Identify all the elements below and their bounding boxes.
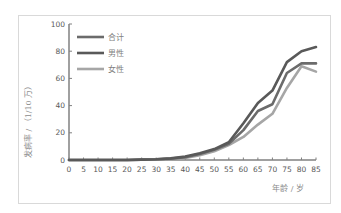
data-lines xyxy=(69,47,316,160)
legend-label: 女性 xyxy=(108,64,124,74)
x-axis-title: 年龄 / 岁 xyxy=(272,183,304,193)
y-tick-label: 40 xyxy=(55,101,65,110)
x-tick-label: 35 xyxy=(166,165,176,174)
x-tick-label: 80 xyxy=(297,165,307,174)
x-tick-label: 50 xyxy=(210,165,220,174)
x-tick-label: 25 xyxy=(137,165,147,174)
y-tick-label: 20 xyxy=(55,128,65,137)
x-tick-label: 60 xyxy=(239,165,249,174)
y-tick-label: 0 xyxy=(60,156,65,165)
x-tick-label: 15 xyxy=(108,165,118,174)
x-tick-label: 20 xyxy=(122,165,132,174)
x-tick-label: 65 xyxy=(253,165,263,174)
y-axis: 020406080100 xyxy=(51,20,72,165)
y-tick-label: 80 xyxy=(55,47,65,56)
x-tick-label: 85 xyxy=(311,165,321,174)
y-tick-label: 100 xyxy=(51,20,66,29)
legend-label: 男性 xyxy=(108,48,124,58)
x-tick-label: 10 xyxy=(93,165,103,174)
x-tick-label: 5 xyxy=(81,165,86,174)
legend: 合计男性女性 xyxy=(77,32,124,74)
x-tick-label: 70 xyxy=(268,165,278,174)
x-tick-label: 30 xyxy=(151,165,161,174)
x-tick-label: 55 xyxy=(224,165,234,174)
x-tick-label: 0 xyxy=(67,165,72,174)
x-tick-label: 45 xyxy=(195,165,205,174)
y-axis-title: 发病率 / （1/10 万） xyxy=(23,82,33,158)
x-tick-label: 40 xyxy=(180,165,190,174)
legend-label: 合计 xyxy=(108,32,124,42)
x-tick-label: 75 xyxy=(282,165,292,174)
y-tick-label: 60 xyxy=(55,74,65,83)
line-chart: 020406080100 051015202530354045505560657… xyxy=(0,0,341,213)
